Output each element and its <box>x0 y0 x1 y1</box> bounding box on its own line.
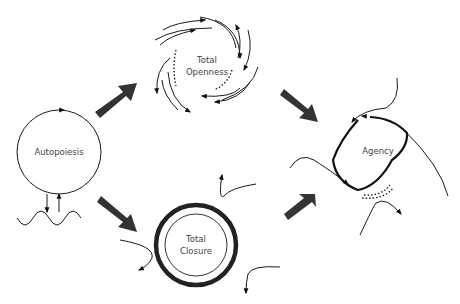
closure-outer-ring <box>156 205 236 285</box>
agency-flow-right <box>404 130 448 196</box>
agency-flow-top <box>352 78 398 122</box>
agency-node: Agency <box>290 78 448 235</box>
agency-flow-left <box>290 157 348 184</box>
big-arrow-openness-to-agency <box>280 89 318 122</box>
closure-label-line2: Closure <box>180 246 212 256</box>
autopoiesis-node: Autopoiesis <box>17 110 101 225</box>
environment-wave <box>17 211 81 225</box>
openness-label-line1: Total <box>196 55 217 65</box>
agency-flow-bottom <box>360 201 401 235</box>
autopoiesis-label: Autopoiesis <box>34 147 84 157</box>
openness-label-line2: Openness <box>186 67 229 77</box>
big-arrow-to-openness <box>95 83 137 118</box>
deflected-flow-right <box>246 267 280 293</box>
deflected-flow-top <box>220 175 256 197</box>
total-openness-node: Total Openness <box>155 17 258 112</box>
agency-label: Agency <box>362 146 394 156</box>
closure-inner-ring <box>165 214 227 276</box>
big-arrow-closure-to-agency <box>284 194 316 220</box>
autopoiesis-diagram: Autopoiesis Total Openness <box>0 0 460 304</box>
big-arrow-to-closure <box>97 196 137 232</box>
deflected-flow-left <box>120 240 152 270</box>
closure-label-line1: Total <box>185 234 206 244</box>
total-closure-node: Total Closure <box>120 175 280 293</box>
